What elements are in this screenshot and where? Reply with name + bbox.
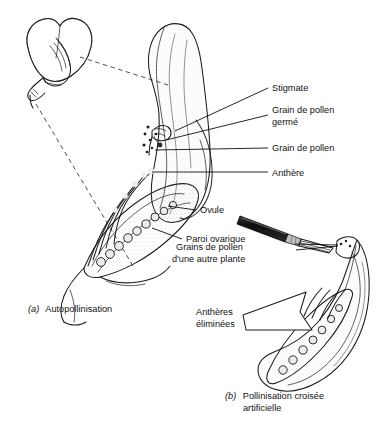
pollen-dot-right	[340, 243, 343, 246]
ovule	[318, 326, 326, 334]
anther-5	[112, 207, 117, 212]
ovule	[97, 258, 106, 267]
caption-a-text: Autopollinisation	[45, 304, 112, 314]
pollen-dot	[146, 151, 149, 154]
pollen-dot	[155, 133, 157, 135]
ovule	[336, 305, 343, 312]
pollination-figure: Stigmate Grain de pollen germé Grain de …	[0, 0, 383, 424]
label-grain-pollen-germe-line2: germé	[272, 117, 298, 127]
ovule	[133, 227, 141, 235]
ovule	[169, 201, 176, 208]
caption-a-marker: (a)	[28, 304, 39, 314]
caption-b-text-line1: Pollinisation croisée	[243, 391, 324, 401]
pollen-dot	[143, 144, 146, 147]
ovule	[309, 336, 317, 344]
label-antheres-eliminees-line1: Anthères	[196, 307, 233, 317]
pollen-dot-right	[345, 240, 347, 242]
ovule	[160, 207, 168, 215]
pollen-dot	[151, 147, 153, 149]
pollen-dot	[149, 139, 152, 142]
label-stigmate: Stigmate	[272, 83, 308, 93]
pollen-dot	[147, 126, 150, 129]
label-grains-autre-plante-line1: Grains de pollen	[176, 242, 243, 252]
caption-b-marker: (b)	[225, 391, 236, 401]
label-anthere: Anthère	[272, 168, 304, 178]
ovule	[279, 366, 287, 374]
ovule	[115, 242, 124, 251]
ovule	[289, 356, 297, 364]
ovule	[106, 250, 115, 259]
label-grain-de-pollen: Grain de pollen	[272, 143, 334, 153]
anther-3	[132, 181, 138, 187]
ovule	[142, 220, 150, 228]
ovule	[124, 234, 133, 243]
anther-4	[122, 193, 128, 199]
label-antheres-eliminees-line2: éliminées	[196, 319, 235, 329]
ovule	[299, 346, 307, 354]
caption-b-line2: artificielle	[243, 403, 281, 413]
label-grains-autre-plante-line2: d'une autre plante	[172, 254, 245, 264]
pollen-dot	[144, 133, 147, 136]
pollen-dot-right	[349, 245, 351, 247]
label-grain-pollen-germe-line1: Grain de pollen	[272, 105, 334, 115]
caption-a: (a) Autopollinisation	[28, 304, 112, 314]
anther-2	[141, 172, 147, 178]
label-ovule: Ovule	[200, 205, 224, 215]
anther-1	[148, 168, 154, 174]
ovule	[151, 213, 159, 221]
